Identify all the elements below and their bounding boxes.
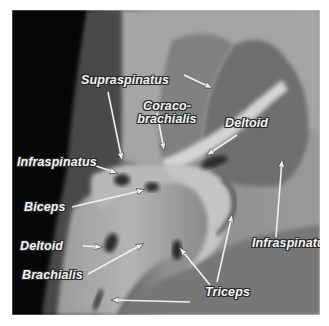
label-deltoid-left: Deltoid — [20, 240, 63, 253]
label-biceps: Biceps — [24, 201, 66, 214]
label-brachialis: Brachialis — [22, 269, 83, 282]
label-coracobrachialis-line2: brachialis — [134, 113, 200, 126]
label-infraspinatus-right: Infraspinatus — [252, 237, 320, 250]
label-supraspinatus: Supraspinatus — [81, 74, 169, 87]
radiograph-image: Supraspinatus Coraco- brachialis Deltoid… — [12, 10, 320, 315]
label-infraspinatus-left: Infraspinatus — [17, 156, 97, 169]
label-triceps: Triceps — [205, 286, 250, 299]
label-deltoid-top: Deltoid — [225, 117, 268, 130]
label-coracobrachialis: Coraco- brachialis — [134, 100, 200, 126]
